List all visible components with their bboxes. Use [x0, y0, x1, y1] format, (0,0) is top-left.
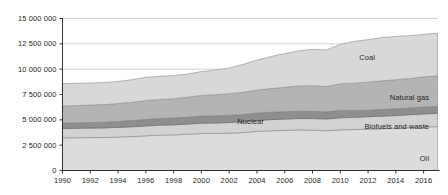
y-tick-label: 12 500 000 — [18, 39, 57, 48]
y-tick-label: 0 — [52, 166, 56, 175]
series-label-nuclear: Nuclear — [0, 117, 264, 126]
x-tick-label: 2016 — [408, 176, 440, 185]
y-tick-label: 2 500 000 — [22, 141, 56, 150]
series-label-natural-gas: Natural gas — [0, 93, 429, 102]
series-label-coal: Coal — [0, 53, 375, 62]
series-label-oil: Oil — [0, 154, 429, 163]
y-tick-label: 15 000 000 — [18, 14, 57, 23]
y-tick-label: 10 000 000 — [18, 65, 57, 74]
stacked-area-chart: 02 500 0005 000 0007 500 00010 000 00012… — [0, 0, 448, 195]
